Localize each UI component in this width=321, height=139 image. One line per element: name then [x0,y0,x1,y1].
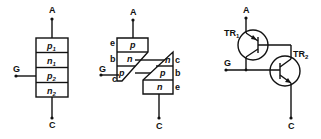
lower-layer-p: p [159,68,166,78]
label-emitter-upper: e [110,38,115,48]
label-collector-lower: c [175,55,180,65]
tr2-npn-transistor: TR2 [270,45,309,118]
label-base-upper: b [110,54,116,64]
gate-label: G [224,58,231,68]
lower-layer-n2: n [157,82,163,92]
transistor-model: A TR1 TR2 G C [224,5,309,131]
thyristor-diagram: A p1 n1 p2 n2 G C A p n p e b c [0,0,321,139]
tr1-label: TR1 [224,28,240,39]
label-base-lower: b [175,68,181,78]
anode-label: A [243,5,250,15]
upper-layer-p: p [129,40,136,50]
cathode-label: C [49,120,56,130]
split-layer-model: A p n p e b c n p n c b e G C [99,7,181,131]
junction-dot [245,69,248,72]
four-layer-model: A p1 n1 p2 n2 G C [13,5,68,130]
anode-label: A [49,5,56,15]
tr1-pnp-transistor: TR1 [224,28,291,70]
cathode-label: C [156,121,163,131]
tr2-label: TR2 [293,49,309,60]
upper-layer-p2: p [118,68,125,78]
cathode-terminal [157,116,160,119]
lower-layer-n: n [165,55,171,65]
gate-label: G [99,64,106,74]
label-emitter-lower: e [175,82,180,92]
cathode-terminal [289,116,292,119]
cathode-label: C [288,121,295,131]
anode-label: A [130,7,137,17]
gate-label: G [13,64,20,74]
upper-layer-n: n [127,54,133,64]
